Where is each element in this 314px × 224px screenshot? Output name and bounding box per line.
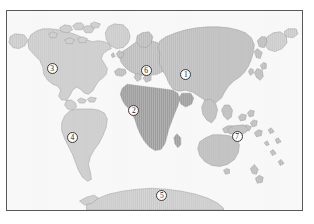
map-marker-africa[interactable]: 2 [128,105,139,116]
map-marker-north-america[interactable]: 3 [47,63,58,74]
world-map-graphic [7,11,302,210]
map-marker-europe[interactable]: 6 [141,65,152,76]
map-frame: 1 2 3 4 5 6 7 [6,10,303,211]
map-texture-overlay [7,11,302,210]
map-marker-south-america[interactable]: 4 [67,132,78,143]
map-marker-antarctica[interactable]: 5 [156,190,167,201]
map-marker-oceania[interactable]: 7 [232,131,243,142]
world-map-figure: 1 2 3 4 5 6 7 [0,0,314,224]
